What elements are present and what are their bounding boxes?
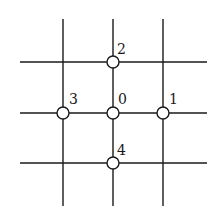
node-label: 1: [169, 91, 178, 107]
node-3: 3: [57, 91, 78, 119]
node-label: 4: [117, 142, 126, 158]
node-4: 4: [107, 142, 126, 169]
grid-nodes: 01234: [57, 41, 178, 169]
node-label: 2: [117, 41, 126, 57]
node-label: 0: [118, 91, 127, 107]
lattice-diagram: 01234: [0, 0, 223, 223]
node-circle-icon: [157, 107, 169, 119]
node-2: 2: [107, 41, 126, 68]
node-circle-icon: [107, 157, 119, 169]
node-circle-icon: [107, 107, 119, 119]
node-1: 1: [157, 91, 178, 119]
node-circle-icon: [107, 56, 119, 68]
node-circle-icon: [57, 107, 69, 119]
lattice-svg: 01234: [0, 0, 223, 223]
node-label: 3: [69, 91, 78, 107]
node-0: 0: [107, 91, 127, 119]
